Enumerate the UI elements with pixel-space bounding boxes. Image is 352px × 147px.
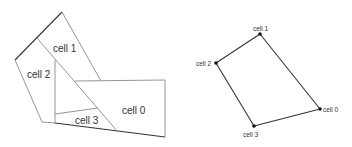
- divider-cell3-top: [55, 108, 98, 114]
- cell-1-label: cell 1: [53, 43, 77, 54]
- right-adjacency-graph: [216, 34, 320, 126]
- cell0-rect: [75, 80, 165, 137]
- node-label-cell-0: cell 0: [323, 106, 339, 113]
- graph-node-labels: cell 0 cell 1 cell 2 cell 3: [196, 25, 339, 138]
- edge-2-3: [216, 63, 254, 126]
- edge-3-0: [254, 109, 320, 126]
- node-label-cell-3: cell 3: [243, 131, 259, 138]
- node-cell-3: [252, 124, 256, 128]
- node-cell-0: [318, 107, 322, 111]
- node-label-cell-1: cell 1: [253, 25, 269, 32]
- node-label-cell-2: cell 2: [196, 60, 212, 67]
- cell-3-label: cell 3: [75, 115, 99, 126]
- cell-0-label: cell 0: [122, 105, 146, 116]
- diagram-canvas: cell 0 cell 1 cell 2 cell 3 cell 0 cell …: [0, 0, 352, 147]
- edge-1-0: [260, 34, 320, 109]
- graph-nodes: [214, 32, 322, 128]
- edge-1-2: [216, 34, 260, 63]
- node-cell-2: [214, 61, 218, 65]
- cell-2-label: cell 2: [27, 69, 51, 80]
- bottom-edge: [55, 123, 165, 137]
- node-cell-1: [258, 32, 262, 36]
